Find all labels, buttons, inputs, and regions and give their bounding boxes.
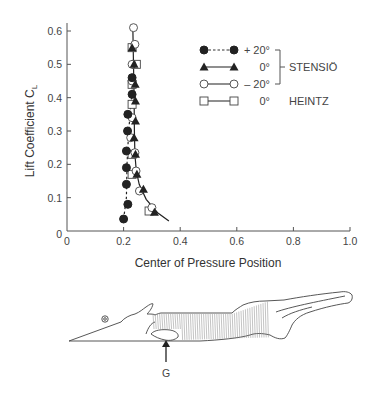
fish-outline bbox=[69, 292, 352, 341]
stripe bbox=[263, 303, 264, 337]
stripe bbox=[248, 309, 249, 338]
stripe bbox=[179, 314, 180, 329]
x-tick-label: 0.2 bbox=[116, 235, 131, 247]
legend-label: 0° bbox=[259, 95, 270, 107]
stripe bbox=[199, 314, 200, 339]
y-axis-title-main: Lift Coefficient C bbox=[23, 89, 37, 177]
stripe bbox=[243, 310, 244, 338]
stripe bbox=[267, 302, 268, 338]
legend-marker bbox=[200, 46, 208, 54]
legend-bracket bbox=[275, 50, 285, 84]
stripe bbox=[160, 314, 161, 329]
stripe bbox=[206, 314, 207, 339]
data-point bbox=[120, 215, 128, 223]
stripe bbox=[153, 314, 154, 329]
y-tick-label: 0 bbox=[56, 228, 62, 240]
x-tick-label: 0.8 bbox=[286, 235, 301, 247]
data-point bbox=[124, 127, 132, 135]
stripe bbox=[184, 314, 185, 340]
legend-marker bbox=[230, 80, 238, 88]
data-point bbox=[130, 24, 138, 32]
data-point bbox=[124, 200, 132, 208]
legend: + 20°0°– 20°0°STENSIÖHEINTZ bbox=[200, 44, 338, 107]
stripe bbox=[223, 314, 224, 339]
legend-label: 0° bbox=[259, 61, 270, 73]
stripe bbox=[190, 314, 191, 340]
legend-group-label: HEINTZ bbox=[289, 95, 329, 107]
stripe bbox=[166, 314, 167, 329]
series-filled-circle bbox=[120, 74, 136, 223]
data-point bbox=[124, 110, 132, 118]
data-marks bbox=[120, 24, 159, 223]
legend-marker bbox=[200, 80, 208, 88]
stripe bbox=[261, 304, 262, 338]
stripe bbox=[256, 305, 257, 337]
y-axis-title: Lift Coefficient CL bbox=[23, 84, 39, 177]
stripe bbox=[237, 312, 238, 338]
stripe bbox=[230, 314, 231, 339]
stripe bbox=[177, 314, 178, 329]
gill-opening bbox=[151, 330, 178, 341]
data-point bbox=[122, 147, 130, 155]
stripe bbox=[217, 314, 218, 339]
stripe bbox=[173, 314, 174, 329]
stripe bbox=[212, 314, 213, 339]
stripe bbox=[226, 314, 227, 339]
stripe bbox=[197, 314, 198, 339]
x-tick-label: 0 bbox=[64, 235, 70, 247]
stripe bbox=[239, 312, 240, 339]
eye-icon bbox=[102, 316, 108, 322]
fish-illustration bbox=[69, 292, 352, 362]
y-tick-label: 0.5 bbox=[47, 58, 62, 70]
stripe bbox=[182, 314, 183, 340]
data-point bbox=[122, 180, 130, 188]
stripe bbox=[210, 314, 211, 339]
svg-text:Lift Coefficient CL: Lift Coefficient CL bbox=[23, 84, 39, 177]
stripe bbox=[221, 314, 222, 339]
stripe bbox=[201, 314, 202, 339]
stripe bbox=[252, 307, 253, 338]
stripe bbox=[232, 314, 233, 339]
stripe bbox=[162, 314, 163, 329]
y-tick-label: 0.1 bbox=[47, 192, 62, 204]
x-tick-label: 0.4 bbox=[173, 235, 188, 247]
y-tick-label: 0.3 bbox=[47, 125, 62, 137]
stripe bbox=[157, 314, 158, 329]
y-tick-label: 0.4 bbox=[47, 92, 62, 104]
eye-pupil-icon bbox=[104, 318, 107, 321]
stripe bbox=[241, 311, 242, 338]
stripe bbox=[204, 314, 205, 339]
legend-item: + 20° bbox=[200, 44, 270, 56]
y-tick-label: 0.6 bbox=[47, 25, 62, 37]
stripe bbox=[250, 308, 251, 338]
legend-marker bbox=[230, 46, 238, 54]
stripe bbox=[208, 314, 209, 339]
data-point bbox=[122, 164, 130, 172]
stripe bbox=[228, 314, 229, 339]
axes: 00.20.40.60.81.000.10.20.30.40.50.6 bbox=[47, 23, 357, 247]
legend-item: – 20° bbox=[200, 78, 270, 90]
stripe bbox=[195, 314, 196, 340]
stripe bbox=[186, 314, 187, 340]
stripe bbox=[245, 309, 246, 338]
x-tick-label: 1.0 bbox=[343, 235, 358, 247]
legend-group-label: STENSIÖ bbox=[289, 61, 338, 73]
legend-label: + 20° bbox=[244, 44, 270, 56]
stripe bbox=[265, 302, 266, 337]
stripe bbox=[164, 314, 165, 329]
x-tick-label: 0.6 bbox=[229, 235, 244, 247]
legend-marker bbox=[200, 97, 208, 105]
legend-item: 0° bbox=[200, 95, 270, 107]
stripe bbox=[193, 314, 194, 340]
legend-marker bbox=[230, 97, 238, 105]
stripe bbox=[219, 314, 220, 339]
y-axis-title-subscript: L bbox=[30, 84, 39, 89]
series-filled-triangle bbox=[128, 43, 159, 216]
stripe bbox=[168, 314, 169, 329]
legend-item: 0° bbox=[200, 61, 271, 73]
chart: 00.20.40.60.81.000.10.20.30.40.50.6 + 20… bbox=[0, 0, 377, 394]
data-point bbox=[128, 90, 136, 98]
stripe bbox=[215, 314, 216, 339]
x-axis-title: Center of Pressure Position bbox=[135, 256, 282, 270]
stripe bbox=[188, 314, 189, 340]
